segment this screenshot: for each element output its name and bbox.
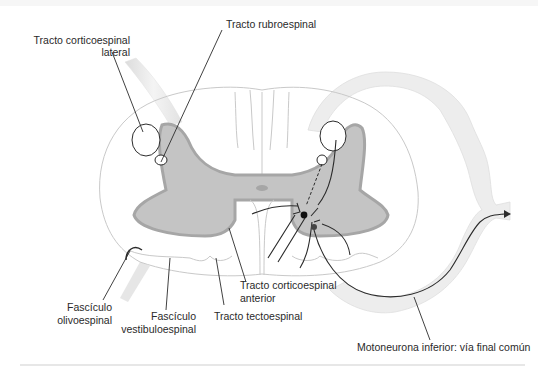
label-vestibulospinal-line1: Fascículo xyxy=(151,310,196,322)
ventral-fissure xyxy=(250,200,274,275)
label-olivospinal-line1: Fascículo xyxy=(67,301,112,313)
label-tectospinal: Tracto tectoespinal xyxy=(214,310,302,322)
label-lateral-corticospinal-line2: lateral xyxy=(101,46,130,58)
leader-vestibulospinal xyxy=(166,258,170,310)
dorsal-septum xyxy=(235,90,289,175)
label-anterior-corticospinal-line1: Tracto corticoespinal xyxy=(240,279,336,291)
label-vestibulospinal-line2: vestibuloespinal xyxy=(121,323,196,335)
gray-matter xyxy=(134,124,388,236)
central-canal xyxy=(256,185,268,191)
left-lateral-corticospinal-tract xyxy=(132,124,160,156)
leader-tectospinal xyxy=(216,258,224,305)
right-rubrospinal-tract xyxy=(317,155,327,165)
label-lateral-corticospinal-line1: Tracto corticoespinal xyxy=(34,34,130,46)
label-anterior-corticospinal-line2: anterior xyxy=(240,292,276,304)
leader-anterior-corticospinal xyxy=(229,228,246,282)
right-lateral-corticospinal-tract xyxy=(320,121,346,151)
left-rubrospinal-tract xyxy=(155,155,167,165)
label-rubrospinal: Tracto rubroespinal xyxy=(226,18,316,30)
leader-rubrospinal xyxy=(161,30,222,162)
left-dorsal-root xyxy=(125,58,182,125)
header-band xyxy=(0,0,538,6)
ventral-scallops xyxy=(128,250,378,261)
motor-neuron-cell-body xyxy=(301,212,308,219)
left-ventral-root xyxy=(120,262,150,302)
interneuron-cell-body xyxy=(311,224,317,230)
label-olivospinal-line2: olivoespinal xyxy=(57,314,112,326)
spinal-cord-diagram: Tracto corticoespinal lateral Tracto rub… xyxy=(0,0,538,371)
label-lower-motor-neuron: Motoneurona inferior: vía final común xyxy=(357,341,531,353)
